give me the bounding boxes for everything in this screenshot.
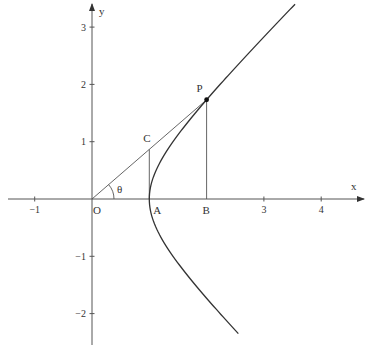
ticks: −134321−1−2 xyxy=(29,22,323,320)
x-tick-label: −1 xyxy=(29,204,40,215)
x-tick-label: 3 xyxy=(261,204,266,215)
x-axis-label: x xyxy=(351,180,357,192)
construction-lines xyxy=(92,4,295,333)
axes: x y xyxy=(8,4,364,345)
y-tick-label: −1 xyxy=(75,251,86,262)
point-p xyxy=(204,97,209,102)
label-c: C xyxy=(143,132,150,144)
label-a: A xyxy=(153,204,161,216)
hyperbola-figure: x y −134321−1−2 O A B P C θ xyxy=(0,0,372,349)
hyperbola-curve xyxy=(149,4,295,333)
label-b: B xyxy=(203,204,210,216)
y-axis-label: y xyxy=(99,5,105,17)
angle-theta-arc xyxy=(109,185,114,199)
y-tick-label: 1 xyxy=(81,136,86,147)
y-tick-label: 2 xyxy=(81,79,86,90)
label-o: O xyxy=(93,204,101,216)
y-tick-label: 3 xyxy=(81,22,86,33)
point-labels: O A B P C θ xyxy=(93,82,210,216)
x-tick-label: 4 xyxy=(319,204,324,215)
label-p: P xyxy=(197,82,203,94)
y-tick-label: −2 xyxy=(75,308,86,319)
label-theta: θ xyxy=(117,183,122,195)
